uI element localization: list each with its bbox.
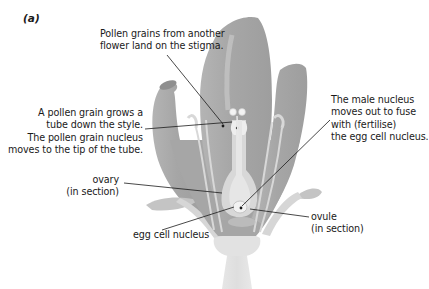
label-line: egg cell nucleus	[133, 229, 209, 241]
label-ovule: ovule (in section)	[311, 211, 364, 236]
label-line: moves out to fuse	[331, 106, 429, 118]
egg-nucleus-dot	[240, 207, 243, 210]
label-line: tube down the style.	[8, 119, 143, 131]
panel-label: (a)	[23, 12, 40, 24]
label-egg-cell: egg cell nucleus	[133, 229, 209, 241]
pollen-grain	[230, 109, 237, 116]
label-pollen-stigma: Pollen grains from another flower land o…	[100, 28, 225, 53]
label-line: flower land on the stigma.	[100, 40, 225, 52]
label-line: ovule	[311, 211, 364, 223]
label-line: The male nucleus	[331, 94, 429, 106]
label-line: (in section)	[66, 186, 119, 198]
pollen-grain	[239, 109, 246, 116]
label-male-nucleus: The male nucleus moves out to fuse with …	[331, 94, 429, 144]
label-line: with (fertilise)	[331, 119, 429, 131]
label-line: The pollen grain nucleus	[8, 132, 143, 144]
pollen-dot	[222, 125, 225, 128]
label-line: Pollen grains from another	[100, 28, 225, 40]
label-line: moves to the tip of the tube.	[8, 144, 143, 156]
label-line: (in section)	[311, 223, 364, 235]
label-line: A pollen grain grows a	[8, 107, 143, 119]
label-line: the egg cell nucleus.	[331, 131, 429, 143]
label-pollen-tube: A pollen grain grows a tube down the sty…	[8, 107, 143, 157]
stalk	[214, 234, 261, 289]
label-ovary: ovary (in section)	[66, 174, 119, 199]
label-line: ovary	[66, 174, 119, 186]
